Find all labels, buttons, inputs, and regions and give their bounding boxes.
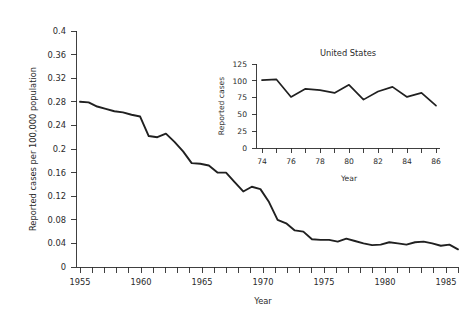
main-y-ticks — [71, 31, 77, 267]
main-x-ticks — [80, 267, 458, 273]
main-y-tick-label: 0.2 — [53, 144, 66, 154]
main-x-tick-label: 1960 — [130, 277, 151, 287]
main-y-tick-label: 0.12 — [48, 191, 66, 201]
main-y-tick-labels: 0.4 0.36 0.32 0.28 0.24 0.2 0.16 0.12 0.… — [48, 26, 66, 272]
main-x-tick-label: 1955 — [69, 277, 90, 287]
inset-y-axis-title: Reported cases — [217, 77, 226, 136]
inset-x-tick-label: 76 — [286, 157, 296, 166]
inset-y-tick-label: 25 — [237, 127, 247, 136]
inset-x-tick-label: 74 — [257, 157, 267, 166]
inset-x-tick-label: 84 — [402, 157, 412, 166]
main-y-tick-label: 0.04 — [48, 238, 66, 248]
inset-y-tick-label: 100 — [233, 77, 248, 86]
main-y-tick-label: 0.16 — [48, 168, 66, 178]
inset-x-tick-label: 78 — [315, 157, 325, 166]
main-y-tick-label: 0.32 — [48, 73, 66, 83]
inset-title: United States — [320, 48, 376, 58]
inset-chart: United States 125 100 75 50 25 0 — [212, 44, 458, 183]
inset-y-tick-label: 75 — [237, 93, 247, 102]
inset-x-tick-label: 80 — [344, 157, 354, 166]
main-x-tick-label: 1975 — [313, 277, 334, 287]
main-x-tick-label: 1985 — [435, 277, 456, 287]
main-x-tick-label: 1980 — [374, 277, 395, 287]
inset-x-axis-title: Year — [340, 174, 358, 183]
main-x-axis-title: Year — [253, 296, 272, 306]
inset-y-tick-label: 125 — [233, 60, 248, 69]
inset-x-tick-label: 82 — [373, 157, 383, 166]
main-x-tick-labels: 1955 1960 1965 1970 1975 1980 1985 — [69, 277, 456, 287]
main-y-axis-title: Reported cases per 100,000 population — [28, 67, 38, 231]
chart-figure: 0.4 0.36 0.32 0.28 0.24 0.2 0.16 0.12 0.… — [0, 0, 465, 323]
main-x-tick-label: 1965 — [191, 277, 212, 287]
inset-background — [212, 44, 458, 156]
main-x-tick-label: 1970 — [252, 277, 273, 287]
main-y-tick-label: 0 — [61, 262, 66, 272]
inset-x-tick-label: 86 — [431, 157, 441, 166]
main-y-tick-label: 0.36 — [48, 50, 66, 60]
main-y-tick-label: 0.24 — [48, 120, 66, 130]
inset-x-tick-labels: 74 76 78 80 82 84 86 — [257, 157, 441, 166]
inset-y-tick-label: 50 — [237, 110, 247, 119]
main-y-tick-label: 0.4 — [53, 26, 66, 36]
inset-y-tick-label: 0 — [242, 144, 247, 153]
main-y-tick-label: 0.28 — [48, 97, 66, 107]
main-y-tick-label: 0.08 — [48, 215, 66, 225]
chart-svg: 0.4 0.36 0.32 0.28 0.24 0.2 0.16 0.12 0.… — [0, 0, 465, 323]
